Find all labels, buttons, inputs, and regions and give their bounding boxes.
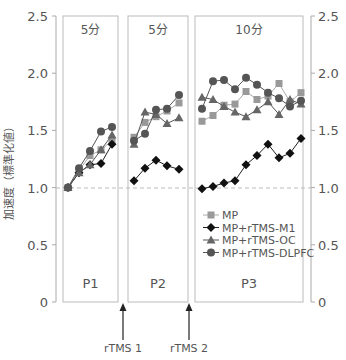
legend-label: MP+rTMS-OC bbox=[222, 234, 296, 247]
chart: 00.51.01.52.02.5 00.51.01.52.02.5 加速度（標準… bbox=[0, 0, 346, 360]
series-group bbox=[64, 74, 306, 193]
y-tick-label: 0 bbox=[318, 295, 326, 310]
y-axis-left: 00.51.01.52.02.5 bbox=[27, 9, 56, 310]
legend-label: MP bbox=[222, 209, 238, 222]
panel-label: P3 bbox=[241, 276, 257, 291]
legend-item: MP bbox=[203, 209, 238, 222]
series-mp-rtms-m1 bbox=[64, 134, 306, 193]
y-tick-label: 2.5 bbox=[27, 9, 48, 24]
legend: MPMP+rTMS-M1MP+rTMS-OCMP+rTMS-DLPFC bbox=[203, 209, 315, 260]
y-tick-label: 2.5 bbox=[318, 9, 339, 24]
y-tick-label: 1.5 bbox=[27, 123, 48, 138]
rtms2-label: rTMS 2 bbox=[170, 342, 208, 355]
rtms1-label: rTMS 1 bbox=[104, 342, 142, 355]
legend-label: MP+rTMS-DLPFC bbox=[222, 247, 315, 260]
panel-label: P1 bbox=[82, 276, 98, 291]
panel-duration: 5分 bbox=[81, 23, 101, 37]
y-tick-label: 1.0 bbox=[318, 181, 339, 196]
y-tick-label: 1.5 bbox=[318, 123, 339, 138]
y-tick-label: 2.0 bbox=[318, 66, 339, 81]
legend-item: MP+rTMS-OC bbox=[203, 234, 296, 247]
arrow-up-icon bbox=[120, 303, 127, 311]
series-mp bbox=[65, 80, 305, 191]
legend-item: MP+rTMS-DLPFC bbox=[203, 247, 315, 260]
legend-label: MP+rTMS-M1 bbox=[222, 222, 296, 235]
legend-item: MP+rTMS-M1 bbox=[203, 222, 296, 235]
panel-label: P2 bbox=[150, 276, 166, 291]
rtms1-annotation: rTMS 1 bbox=[104, 303, 142, 355]
y-tick-label: 0 bbox=[40, 295, 48, 310]
y-tick-label: 0.5 bbox=[318, 238, 339, 253]
y-axis-label: 加速度（標準化値） bbox=[2, 121, 16, 220]
y-axis-right: 00.51.01.52.02.5 bbox=[311, 9, 339, 310]
y-tick-label: 2.0 bbox=[27, 66, 48, 81]
arrow-up-icon bbox=[186, 303, 193, 311]
rtms2-annotation: rTMS 2 bbox=[170, 303, 208, 355]
panel-duration: 10分 bbox=[235, 23, 262, 37]
series-mp-rtms-dlpfc bbox=[64, 74, 305, 192]
panel-duration: 5分 bbox=[148, 23, 168, 37]
y-tick-label: 1.0 bbox=[27, 181, 48, 196]
y-tick-label: 0.5 bbox=[27, 238, 48, 253]
